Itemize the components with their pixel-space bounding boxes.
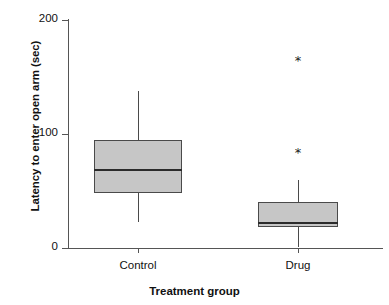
box-control bbox=[94, 140, 182, 194]
y-tick-label: 200 bbox=[18, 13, 58, 25]
outlier-marker-drug-0: * bbox=[292, 146, 304, 159]
y-axis-line bbox=[68, 19, 69, 249]
box-plot-figure: Latency to enter open arm (sec) Treatmen… bbox=[0, 0, 389, 305]
median-drug bbox=[258, 222, 338, 224]
x-tick-label-drug: Drug bbox=[253, 259, 343, 271]
whisker-lower-drug bbox=[298, 227, 299, 246]
x-tick-mark bbox=[298, 248, 299, 253]
y-tick-mark bbox=[62, 134, 68, 135]
x-tick-mark bbox=[138, 248, 139, 253]
y-tick-mark bbox=[62, 248, 68, 249]
whisker-upper-drug bbox=[298, 180, 299, 203]
whisker-lower-control bbox=[138, 193, 139, 222]
y-tick-label: 0 bbox=[18, 241, 58, 253]
whisker-upper-control bbox=[138, 91, 139, 140]
median-control bbox=[94, 169, 182, 171]
x-axis-title: Treatment group bbox=[0, 285, 389, 297]
x-axis-line bbox=[68, 248, 383, 249]
x-tick-label-control: Control bbox=[93, 259, 183, 271]
y-tick-mark bbox=[62, 20, 68, 21]
outlier-marker-drug-1: * bbox=[292, 54, 304, 67]
y-tick-label: 100 bbox=[18, 127, 58, 139]
